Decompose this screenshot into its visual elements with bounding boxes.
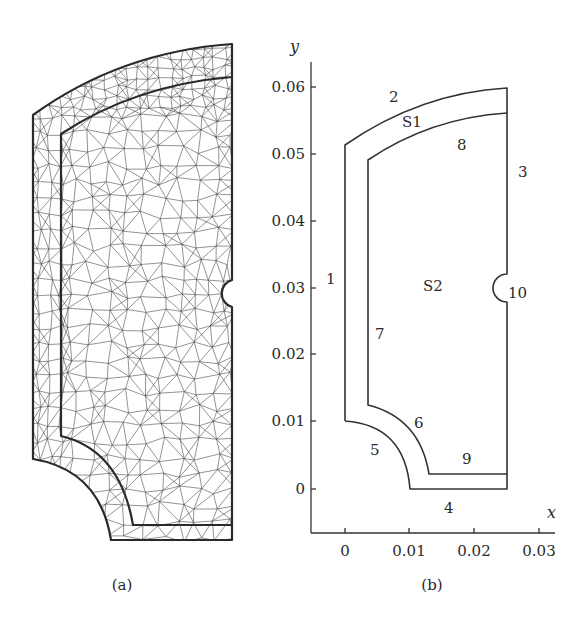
panel-a-caption: (a): [112, 576, 133, 594]
boundary-labels: 1 2 3 4 5 6 7 8 9 10: [326, 88, 528, 517]
x-tick-label: 0.01: [392, 542, 425, 560]
panel-b-caption: (b): [421, 576, 442, 594]
x-tick-label: 0: [340, 542, 350, 560]
subdomain-label-s1: S1: [402, 113, 422, 131]
boundary-label-5: 5: [370, 441, 380, 459]
panel-a-mesh: (a): [25, 36, 238, 594]
y-axis-title: y: [289, 37, 300, 56]
y-tick-label: 0.06: [272, 78, 305, 96]
boundary-label-7: 7: [375, 325, 385, 343]
boundary-label-2: 2: [389, 88, 399, 106]
x-axis-title: x: [547, 503, 556, 522]
boundary-label-6: 6: [414, 414, 424, 432]
x-tick-label: 0.02: [457, 542, 490, 560]
y-tick-label: 0.05: [272, 145, 305, 163]
boundary-label-10: 10: [508, 284, 527, 302]
y-tick-label: 0.02: [272, 345, 305, 363]
mesh-inner-boundary: [61, 77, 232, 525]
subdomain-labels: S1 S2: [402, 113, 443, 295]
y-tick-label: 0.04: [272, 212, 305, 230]
boundary-label-9: 9: [462, 450, 472, 468]
subdomain-label-s2: S2: [423, 277, 443, 295]
y-tick-label: 0: [295, 480, 305, 498]
y-tick-label: 0.03: [272, 279, 305, 297]
boundary-label-8: 8: [457, 136, 467, 154]
figure: (a) 0.06 0.05 0.04 0.03 0.02 0.01 0: [0, 0, 587, 628]
mesh-outer-boundary: [33, 44, 232, 540]
boundary-label-3: 3: [518, 163, 528, 181]
y-ticks: 0.06 0.05 0.04 0.03 0.02 0.01 0: [272, 78, 316, 498]
boundary-label-4: 4: [444, 499, 454, 517]
y-tick-label: 0.01: [272, 412, 305, 430]
x-tick-label: 0.03: [522, 542, 555, 560]
panel-b-geometry: 0.06 0.05 0.04 0.03 0.02 0.01 0 0 0.01 0…: [272, 37, 556, 594]
boundary-label-1: 1: [326, 270, 336, 288]
